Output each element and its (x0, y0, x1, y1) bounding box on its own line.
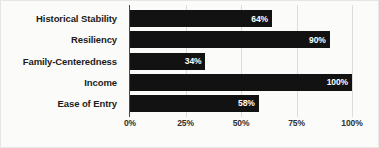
category-label: Family-Centeredness (1, 50, 124, 71)
bar-row: 58% (130, 93, 352, 114)
bar-row: 100% (130, 72, 352, 93)
x-tick-label: 100% (341, 118, 362, 128)
bar: 34% (130, 53, 205, 70)
category-label: Historical Stability (1, 8, 124, 29)
x-tick-label: 25% (177, 118, 194, 128)
bar-value-label: 100% (327, 77, 348, 87)
bar-value-label: 90% (309, 35, 326, 45)
bar-chart: Historical Stability Resiliency Family-C… (0, 0, 379, 148)
bar-row: 64% (130, 8, 352, 29)
category-label: Resiliency (1, 29, 124, 50)
bar: 64% (130, 10, 272, 27)
bar-value-label: 58% (238, 98, 255, 108)
bar: 58% (130, 95, 259, 112)
category-axis-labels: Historical Stability Resiliency Family-C… (1, 8, 124, 114)
bar: 100% (130, 74, 352, 91)
value-axis-labels: 0% 25% 50% 75% 100% (130, 118, 352, 134)
bar-value-label: 34% (185, 56, 202, 66)
gridline-100 (352, 5, 353, 117)
x-tick-label: 75% (288, 118, 305, 128)
category-label: Income (1, 72, 124, 93)
bar-series: 64% 90% 34% 100% 58% (130, 8, 352, 114)
bar-row: 34% (130, 50, 352, 71)
bar: 90% (130, 31, 330, 48)
plot-area: 64% 90% 34% 100% 58% (130, 8, 352, 114)
bar-row: 90% (130, 29, 352, 50)
category-label: Ease of Entry (1, 93, 124, 114)
bar-value-label: 64% (251, 14, 268, 24)
x-tick-label: 50% (233, 118, 250, 128)
x-tick-label: 0% (124, 118, 136, 128)
